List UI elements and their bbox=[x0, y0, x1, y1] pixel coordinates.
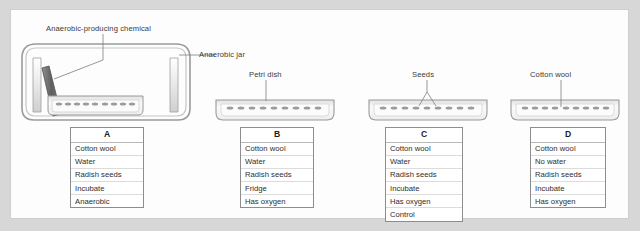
list-item: Incubate bbox=[71, 182, 143, 195]
label-seeds: Seeds bbox=[412, 70, 434, 79]
condition-card-a: A Cotton wool Water Radish seeds Incubat… bbox=[70, 127, 144, 208]
list-item: Incubate bbox=[386, 182, 462, 195]
list-item: Radish seeds bbox=[386, 169, 462, 182]
list-item: Fridge bbox=[241, 182, 313, 195]
list-item: Cotton wool bbox=[531, 143, 605, 156]
list-item: Radish seeds bbox=[71, 169, 143, 182]
list-item: Has oxygen bbox=[241, 195, 313, 207]
card-list-d: Cotton wool No water Radish seeds Incuba… bbox=[531, 143, 605, 208]
list-item: No water bbox=[531, 156, 605, 169]
card-header-c: C bbox=[386, 128, 462, 143]
list-item: Has oxygen bbox=[531, 195, 605, 207]
list-item: Radish seeds bbox=[241, 169, 313, 182]
list-item: Cotton wool bbox=[71, 143, 143, 156]
card-header-b: B bbox=[241, 128, 313, 143]
label-anaerobic-jar: Anaerobic jar bbox=[199, 50, 245, 59]
label-petri-dish: Petri dish bbox=[249, 70, 282, 79]
list-item: Cotton wool bbox=[241, 143, 313, 156]
card-list-a: Cotton wool Water Radish seeds Incubate … bbox=[71, 143, 143, 208]
card-list-b: Cotton wool Water Radish seeds Fridge Ha… bbox=[241, 143, 313, 208]
list-item: Cotton wool bbox=[386, 143, 462, 156]
experiment-diagram: Anaerobic-producing chemical Anaerobic j… bbox=[0, 0, 640, 231]
condition-card-c: C Cotton wool Water Radish seeds Incubat… bbox=[385, 127, 463, 222]
condition-card-b: B Cotton wool Water Radish seeds Fridge … bbox=[240, 127, 314, 208]
list-item: Water bbox=[386, 156, 462, 169]
list-item: Control bbox=[386, 208, 462, 220]
label-anaerobic-chemical: Anaerobic-producing chemical bbox=[46, 24, 151, 33]
list-item: Has oxygen bbox=[386, 195, 462, 208]
list-item: Anaerobic bbox=[71, 195, 143, 207]
condition-card-d: D Cotton wool No water Radish seeds Incu… bbox=[530, 127, 606, 208]
list-item: Radish seeds bbox=[531, 169, 605, 182]
label-cotton-wool: Cotton wool bbox=[530, 70, 571, 79]
list-item: Water bbox=[241, 156, 313, 169]
list-item: Water bbox=[71, 156, 143, 169]
card-header-d: D bbox=[531, 128, 605, 143]
list-item: Incubate bbox=[531, 182, 605, 195]
card-list-c: Cotton wool Water Radish seeds Incubate … bbox=[386, 143, 462, 221]
card-header-a: A bbox=[71, 128, 143, 143]
